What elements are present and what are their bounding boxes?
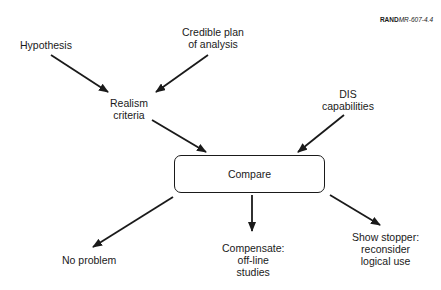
show-stopper-line2: reconsider xyxy=(352,243,419,255)
arrow-hypothesis-to-realism xyxy=(51,55,108,92)
credible-plan-line2: of analysis xyxy=(182,38,244,50)
hypothesis-label: Hypothesis xyxy=(20,39,72,51)
compensate-line3: studies xyxy=(222,266,284,278)
node-show-stopper: Show stopper: reconsider logical use xyxy=(352,231,419,267)
arrow-plan-to-realism xyxy=(156,55,208,92)
node-realism-criteria: Realism criteria xyxy=(110,97,148,121)
no-problem-label: No problem xyxy=(62,254,116,266)
arrow-dis-to-compare xyxy=(298,115,344,152)
compensate-line1: Compensate: xyxy=(222,242,284,254)
node-no-problem: No problem xyxy=(62,254,116,266)
node-credible-plan: Credible plan of analysis xyxy=(182,26,244,50)
realism-line1: Realism xyxy=(110,97,148,109)
compensate-line2: off-line xyxy=(222,254,284,266)
arrow-realism-to-compare xyxy=(152,120,206,152)
node-hypothesis: Hypothesis xyxy=(20,39,72,51)
node-compensate: Compensate: off-line studies xyxy=(222,242,284,278)
realism-line2: criteria xyxy=(110,109,148,121)
arrow-compare-to-noproblem xyxy=(93,197,173,247)
node-dis-capabilities: DIS capabilities xyxy=(322,88,374,112)
node-compare: Compare xyxy=(174,155,325,193)
show-stopper-line3: logical use xyxy=(352,255,419,267)
dis-line2: capabilities xyxy=(322,100,374,112)
compare-label: Compare xyxy=(228,168,271,180)
dis-line1: DIS xyxy=(322,88,374,100)
credible-plan-line1: Credible plan xyxy=(182,26,244,38)
show-stopper-line1: Show stopper: xyxy=(352,231,419,243)
arrow-compare-to-showstopper xyxy=(330,195,380,225)
